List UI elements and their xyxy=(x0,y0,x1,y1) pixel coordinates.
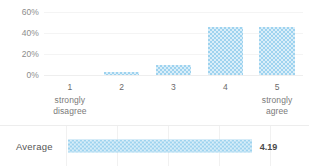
bar-category-3[interactable] xyxy=(156,65,191,75)
bar-slot-1 xyxy=(44,0,96,75)
x-axis-label-4-number: 4 xyxy=(199,82,251,94)
x-axis-label-1-caption-line2: disagree xyxy=(44,106,96,118)
x-axis: 1 strongly disagree 2 3 4 5 strongly agr… xyxy=(44,82,303,122)
average-bar[interactable] xyxy=(68,140,252,153)
x-axis-label-3: 3 xyxy=(148,82,200,95)
y-axis-tick-label: 60% xyxy=(22,7,39,17)
bar-series xyxy=(44,0,303,75)
x-axis-label-5-caption-line1: strongly xyxy=(251,95,303,107)
average-bar-track: 4.19 xyxy=(68,140,299,153)
x-axis-label-2: 2 xyxy=(96,82,148,95)
bar-slot-5 xyxy=(251,0,303,75)
plot-area xyxy=(44,0,303,80)
average-summary-row: Average 4.19 xyxy=(0,125,309,166)
x-axis-label-2-number: 2 xyxy=(96,82,148,94)
bar-slot-4 xyxy=(199,0,251,75)
average-value: 4.19 xyxy=(260,141,278,151)
bar-category-5[interactable] xyxy=(259,27,294,75)
x-axis-label-5-number: 5 xyxy=(251,82,303,94)
x-axis-label-5-caption-line2: agree xyxy=(251,106,303,118)
y-axis-tick-label: 20% xyxy=(22,49,39,59)
y-axis-tick-label: 0% xyxy=(27,70,40,80)
bar-slot-3 xyxy=(148,0,200,75)
bar-category-4[interactable] xyxy=(208,27,243,75)
y-axis-tick-label: 40% xyxy=(22,28,39,38)
average-label: Average xyxy=(16,141,53,152)
x-axis-label-5: 5 strongly agree xyxy=(251,82,303,118)
survey-response-chart-widget: 60% 40% 20% 0% xyxy=(0,0,309,166)
gridline-0 xyxy=(44,75,303,76)
x-axis-label-3-number: 3 xyxy=(148,82,200,94)
distribution-chart: 60% 40% 20% 0% xyxy=(0,0,309,122)
average-gridline xyxy=(66,126,67,166)
x-axis-label-1-number: 1 xyxy=(44,82,96,94)
x-axis-label-1: 1 strongly disagree xyxy=(44,82,96,118)
bar-category-2[interactable] xyxy=(104,72,139,75)
x-axis-label-4: 4 xyxy=(199,82,251,95)
bar-slot-2 xyxy=(96,0,148,75)
x-axis-label-1-caption-line1: strongly xyxy=(44,95,96,107)
y-axis: 60% 40% 20% 0% xyxy=(0,0,44,80)
